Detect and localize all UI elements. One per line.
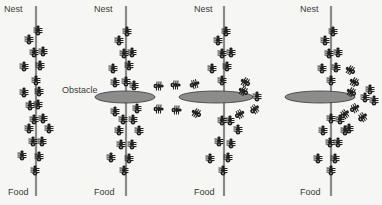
ant-icon xyxy=(30,114,39,124)
ant-icon xyxy=(215,136,224,146)
ant-icon xyxy=(34,99,43,109)
nest-label: Nest xyxy=(4,5,23,14)
nest-label: Nest xyxy=(94,5,113,14)
food-label: Food xyxy=(194,188,215,197)
nest-label: Nest xyxy=(300,5,319,14)
ant-icon xyxy=(25,34,34,44)
ant-icon xyxy=(326,137,335,147)
ant-icon xyxy=(30,47,39,57)
ant-icon xyxy=(218,48,227,58)
ant-icon xyxy=(120,165,129,175)
ant-icon xyxy=(329,26,338,36)
ant-icon xyxy=(109,63,118,73)
ant-icon xyxy=(120,48,129,58)
ant-icon xyxy=(34,25,43,35)
food-label: Food xyxy=(8,188,29,197)
ant-icon xyxy=(214,35,223,45)
ant-icon xyxy=(361,92,370,102)
ant-icon xyxy=(20,61,29,71)
ant-icon xyxy=(348,76,361,89)
ant-icon xyxy=(39,113,48,123)
ant-icon xyxy=(135,125,144,135)
ant-obstacle-diagram: NestFoodNestFoodObstacleNestFoodNestFood xyxy=(0,0,382,205)
ant-icon xyxy=(319,125,328,135)
ant-icon xyxy=(172,106,182,115)
ant-icon xyxy=(356,111,370,124)
ant-icon xyxy=(107,152,116,162)
ant-icon xyxy=(31,165,40,175)
ant-icon xyxy=(154,105,164,114)
food-label: Food xyxy=(300,188,321,197)
obstacle-shape xyxy=(285,91,355,103)
ant-icon xyxy=(222,26,231,36)
ant-icon xyxy=(233,108,246,121)
ant-icon xyxy=(122,76,131,86)
ant-icon xyxy=(332,62,341,72)
ant-icon xyxy=(327,75,336,85)
ant-icon xyxy=(227,138,236,148)
ant-icon xyxy=(26,100,35,110)
ant-icon xyxy=(20,87,29,97)
ant-icon xyxy=(325,48,334,58)
panel-4 xyxy=(285,6,379,196)
ant-icon xyxy=(218,75,227,85)
ant-icon xyxy=(370,95,379,105)
ant-icon xyxy=(115,125,124,135)
diagram-canvas xyxy=(0,0,382,205)
ant-icon xyxy=(239,76,252,89)
obstacle-label: Obstacle xyxy=(62,86,98,95)
ant-icon xyxy=(327,165,336,175)
ant-icon xyxy=(128,47,137,57)
ant-icon xyxy=(39,46,48,56)
ant-icon xyxy=(218,115,227,125)
ant-icon xyxy=(334,137,343,147)
panel-1 xyxy=(18,6,54,196)
ant-icon xyxy=(45,123,54,133)
ant-icon xyxy=(25,123,34,133)
ant-icon xyxy=(321,35,330,45)
ant-icon xyxy=(227,47,236,57)
ant-icon xyxy=(171,81,181,90)
ant-icon xyxy=(327,113,336,123)
ant-icon xyxy=(111,77,120,87)
ant-icon xyxy=(123,26,132,36)
ant-icon xyxy=(348,102,361,115)
ant-icon xyxy=(226,115,235,125)
ant-icon xyxy=(253,91,262,101)
ant-icon xyxy=(130,80,139,90)
ant-icon xyxy=(334,47,343,57)
ant-icon xyxy=(219,165,228,175)
ant-icon xyxy=(366,84,375,94)
ant-icon xyxy=(208,63,217,73)
panel-3 xyxy=(154,6,262,196)
ant-icon xyxy=(117,139,126,149)
ant-icon xyxy=(318,63,327,73)
ant-icon xyxy=(190,107,203,120)
ant-icon xyxy=(344,64,357,77)
ant-icon xyxy=(234,124,243,134)
ant-icon xyxy=(206,153,215,163)
nest-label: Nest xyxy=(194,5,213,14)
obstacle-shape xyxy=(95,91,155,103)
ant-icon xyxy=(248,103,262,116)
ant-icon xyxy=(129,114,138,124)
panel-2 xyxy=(95,6,155,196)
ant-icon xyxy=(115,35,124,45)
ant-icon xyxy=(133,103,142,113)
ant-icon xyxy=(111,106,120,116)
ant-icon xyxy=(128,139,137,149)
ant-icon xyxy=(32,75,41,85)
food-label: Food xyxy=(94,188,115,197)
ant-icon xyxy=(154,82,164,91)
ant-icon xyxy=(38,136,47,146)
ant-icon xyxy=(314,153,323,163)
ant-icon xyxy=(18,150,27,160)
ant-icon xyxy=(188,78,201,90)
